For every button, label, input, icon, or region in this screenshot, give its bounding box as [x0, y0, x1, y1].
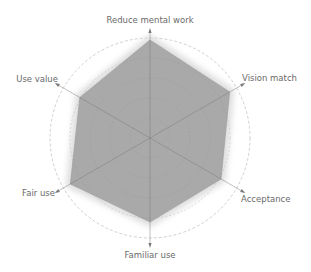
axis-arrow-icon	[240, 189, 245, 193]
axis-label-use-value: Use value	[16, 74, 58, 84]
axis-label-fair-use: Fair use	[22, 188, 55, 198]
axis-label-reduce-mental-work: Reduce mental work	[106, 15, 193, 25]
radar-chart: Reduce mental workVision matchAcceptance…	[0, 0, 311, 272]
axis-arrow-icon	[240, 83, 245, 87]
axis-arrow-icon	[148, 243, 151, 248]
axis-label-familiar-use: Familiar use	[124, 250, 175, 260]
axis-arrow-icon	[148, 28, 151, 33]
axis-arrow-icon	[55, 189, 60, 193]
axis-label-acceptance: Acceptance	[241, 194, 290, 204]
axis-label-vision-match: Vision match	[242, 73, 297, 83]
